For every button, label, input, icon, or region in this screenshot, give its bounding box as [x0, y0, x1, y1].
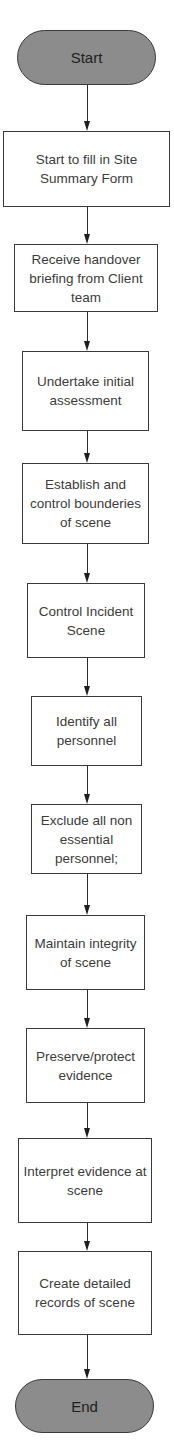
- step-label: Create detailed records of scene: [22, 1274, 148, 1312]
- end-terminator: End: [15, 1379, 154, 1433]
- step-label: Establish and control bounderies of scen…: [26, 475, 145, 532]
- process-step-control-incident-scene: Control Incident Scene: [27, 583, 145, 658]
- end-label: End: [71, 1397, 98, 1416]
- connector-line: [87, 658, 88, 686]
- process-step-create-records: Create detailed records of scene: [18, 1251, 152, 1335]
- arrow-down-icon: [84, 1241, 90, 1251]
- process-step-fill-site-summary-form: Start to fill in Site Summary Form: [3, 131, 170, 207]
- connector-line: [87, 766, 88, 794]
- arrow-down-icon: [84, 905, 90, 915]
- arrow-down-icon: [84, 1018, 90, 1028]
- arrow-down-icon: [84, 121, 90, 131]
- step-label: Start to fill in Site Summary Form: [7, 150, 166, 188]
- step-label: Control Incident Scene: [31, 602, 141, 640]
- connector-line: [87, 1223, 88, 1241]
- connector-line: [87, 1335, 88, 1369]
- flowchart: Start Start to fill in Site Summary Form…: [0, 0, 174, 1445]
- start-terminator: Start: [17, 30, 156, 85]
- arrow-down-icon: [84, 1128, 90, 1138]
- arrow-down-icon: [84, 234, 90, 244]
- process-step-preserve-evidence: Preserve/protect evidence: [26, 1028, 145, 1103]
- step-label: Undertake initial assessment: [26, 372, 145, 410]
- connector-line: [87, 874, 88, 905]
- step-label: Interpret evidence at scene: [22, 1162, 148, 1200]
- process-step-initial-assessment: Undertake initial assessment: [22, 351, 149, 431]
- connector-line: [87, 85, 88, 121]
- process-step-exclude-non-essential: Exclude all non essential personnel;: [31, 804, 142, 874]
- step-label: Exclude all non essential personnel;: [35, 811, 138, 868]
- connector-line: [87, 990, 88, 1018]
- arrow-down-icon: [84, 794, 90, 804]
- start-label: Start: [71, 48, 103, 67]
- process-step-interpret-evidence: Interpret evidence at scene: [18, 1138, 152, 1223]
- connector-line: [87, 207, 88, 234]
- arrow-down-icon: [84, 341, 90, 351]
- process-step-maintain-integrity: Maintain integrity of scene: [26, 915, 145, 990]
- connector-line: [87, 312, 88, 341]
- connector-line: [87, 431, 88, 453]
- arrow-down-icon: [84, 686, 90, 696]
- process-step-establish-boundaries: Establish and control bounderies of scen…: [22, 463, 149, 544]
- connector-line: [87, 1103, 88, 1128]
- step-label: Maintain integrity of scene: [30, 934, 141, 972]
- connector-line: [87, 544, 88, 573]
- step-label: Preserve/protect evidence: [30, 1047, 141, 1085]
- step-label: Identify all personnel: [35, 712, 138, 750]
- arrow-down-icon: [84, 573, 90, 583]
- arrow-down-icon: [84, 1369, 90, 1379]
- step-label: Receive handover briefing from Client te…: [18, 250, 154, 307]
- arrow-down-icon: [84, 453, 90, 463]
- process-step-receive-handover-briefing: Receive handover briefing from Client te…: [14, 244, 158, 312]
- process-step-identify-personnel: Identify all personnel: [31, 696, 142, 766]
